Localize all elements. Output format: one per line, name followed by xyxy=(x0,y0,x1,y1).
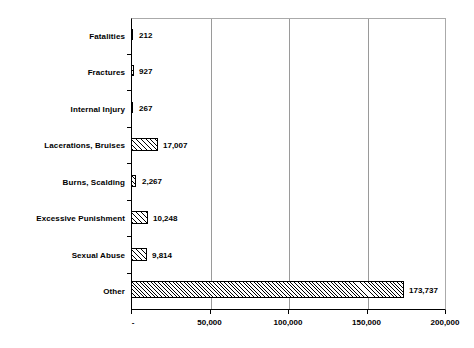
category-label-burns-scalding: Burns, Scalding xyxy=(0,178,125,187)
bar-fatalities xyxy=(131,29,133,40)
ytick-3 xyxy=(127,163,131,164)
bar-value-excessive-punishment: 10,248 xyxy=(153,214,177,223)
category-label-internal-injury: Internal Injury xyxy=(0,105,125,114)
bar-value-fatalities: 212 xyxy=(139,31,152,40)
xtick-mark-150000 xyxy=(367,310,368,314)
bar-value-internal-injury: 267 xyxy=(139,104,152,113)
xtick-mark-200000 xyxy=(445,310,446,314)
xtick-label-0: - xyxy=(132,318,135,327)
bar-value-fractures: 927 xyxy=(139,67,152,76)
bar-value-burns-scalding: 2,267 xyxy=(142,177,162,186)
ytick-0 xyxy=(127,54,131,55)
xtick-mark-50000 xyxy=(210,310,211,314)
ytick-2 xyxy=(127,127,131,128)
xtick-label-50000: 50,000 xyxy=(197,318,221,327)
plot-area xyxy=(131,18,446,310)
bar-value-other: 173,737 xyxy=(409,286,438,295)
bar-sexual-abuse xyxy=(131,248,147,261)
bar-fractures xyxy=(131,65,134,76)
bar-excessive-punishment xyxy=(131,211,148,224)
category-label-other: Other xyxy=(0,287,125,296)
xtick-label-200000: 200,000 xyxy=(431,318,460,327)
xtick-label-100000: 100,000 xyxy=(274,318,303,327)
ytick-6 xyxy=(127,273,131,274)
bar-lacerations-bruises xyxy=(131,138,158,151)
category-label-fractures: Fractures xyxy=(0,68,125,77)
bar-burns-scalding xyxy=(131,175,136,187)
ytick-5 xyxy=(127,236,131,237)
gridline-100000 xyxy=(289,19,290,309)
bar-value-lacerations-bruises: 17,007 xyxy=(163,141,187,150)
category-label-sexual-abuse: Sexual Abuse xyxy=(0,251,125,260)
bar-internal-injury xyxy=(131,102,133,113)
bar-chart: Fatalities 212 Fractures 927 Internal In… xyxy=(0,0,474,348)
category-label-fatalities: Fatalities xyxy=(0,32,125,41)
gridline-150000 xyxy=(368,19,369,309)
ytick-4 xyxy=(127,200,131,201)
ytick-1 xyxy=(127,90,131,91)
category-label-excessive-punishment: Excessive Punishment xyxy=(0,214,125,223)
gridline-50000 xyxy=(211,19,212,309)
bar-value-sexual-abuse: 9,814 xyxy=(152,251,172,260)
xtick-mark-0 xyxy=(131,310,132,314)
category-label-lacerations-bruises: Lacerations, Bruises xyxy=(0,141,125,150)
bar-other xyxy=(131,281,404,298)
xtick-mark-100000 xyxy=(288,310,289,314)
xtick-label-150000: 150,000 xyxy=(352,318,381,327)
